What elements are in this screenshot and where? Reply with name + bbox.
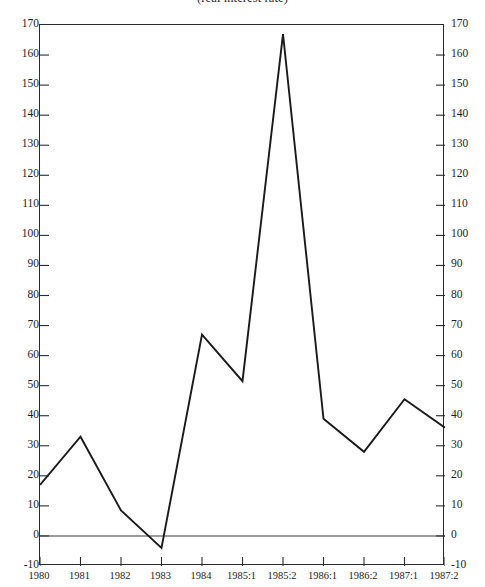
x-axis-label: 1982 bbox=[110, 570, 131, 581]
y-axis-label-right: 40 bbox=[451, 409, 463, 421]
y-axis-label-right: 60 bbox=[451, 349, 463, 361]
x-axis-label: 1985:1 bbox=[227, 570, 256, 581]
chart-title: (real interest rate) bbox=[0, 0, 485, 6]
y-axis-label-left: 20 bbox=[28, 469, 40, 481]
y-axis-label-left: 80 bbox=[28, 289, 40, 301]
y-axis-label-left: 120 bbox=[22, 168, 39, 180]
x-axis-label: 1984 bbox=[191, 570, 212, 581]
y-axis-label-right: 170 bbox=[451, 18, 468, 30]
y-axis-label-left: 160 bbox=[22, 48, 39, 60]
y-axis-label-left: 90 bbox=[28, 258, 40, 270]
y-axis-label-right: 10 bbox=[451, 499, 463, 511]
x-axis-label: 1981 bbox=[69, 570, 90, 581]
y-axis-label-left: 70 bbox=[28, 319, 40, 331]
y-axis-label-right: 100 bbox=[451, 228, 468, 240]
x-axis-label: 1980 bbox=[29, 570, 50, 581]
y-axis-label-right: 160 bbox=[451, 48, 468, 60]
y-axis-label-left: 30 bbox=[28, 439, 40, 451]
y-axis-label-right: 30 bbox=[451, 439, 463, 451]
y-axis-label-right: 70 bbox=[451, 319, 463, 331]
y-axis-label-left: 110 bbox=[22, 198, 39, 210]
x-axis-label: 1987:1 bbox=[389, 570, 418, 581]
y-axis-label-left: 150 bbox=[22, 78, 39, 90]
y-axis-label-right: 90 bbox=[451, 258, 463, 270]
y-axis-label-left: 10 bbox=[28, 499, 40, 511]
y-axis-label-right: 80 bbox=[451, 289, 463, 301]
y-axis-label-right: 0 bbox=[451, 529, 457, 541]
y-axis-label-left: 0 bbox=[33, 529, 39, 541]
y-axis-label-left: 140 bbox=[22, 108, 39, 120]
y-axis-label-right: 150 bbox=[451, 78, 468, 90]
y-axis-label-right: 20 bbox=[451, 469, 463, 481]
x-axis-label: 1986:2 bbox=[348, 570, 377, 581]
y-axis-label-right: 120 bbox=[451, 168, 468, 180]
y-axis-label-right: 50 bbox=[451, 379, 463, 391]
y-axis-label-left: 50 bbox=[28, 379, 40, 391]
x-axis-label: 1986:1 bbox=[308, 570, 337, 581]
y-axis-label-right: 110 bbox=[451, 198, 468, 210]
y-axis-label-left: 40 bbox=[28, 409, 40, 421]
y-axis-label-left: 100 bbox=[22, 228, 39, 240]
y-axis-label-left: 60 bbox=[28, 349, 40, 361]
y-axis-label-left: -10 bbox=[24, 559, 39, 571]
plot-area bbox=[39, 24, 444, 565]
y-axis-label-right: 140 bbox=[451, 108, 468, 120]
plot-svg bbox=[40, 25, 445, 566]
y-axis-label-left: 170 bbox=[22, 18, 39, 30]
y-axis-label-right: 130 bbox=[451, 138, 468, 150]
axis-tick-marks bbox=[40, 55, 445, 566]
x-axis-label: 1983 bbox=[150, 570, 171, 581]
x-axis-label: 1987:2 bbox=[429, 570, 458, 581]
data-series-line bbox=[40, 34, 445, 548]
y-axis-label-right: -10 bbox=[451, 559, 466, 571]
chart-figure: (real interest rate) -100102030405060708… bbox=[0, 0, 485, 587]
y-axis-label-left: 130 bbox=[22, 138, 39, 150]
x-axis-label: 1985:2 bbox=[267, 570, 296, 581]
